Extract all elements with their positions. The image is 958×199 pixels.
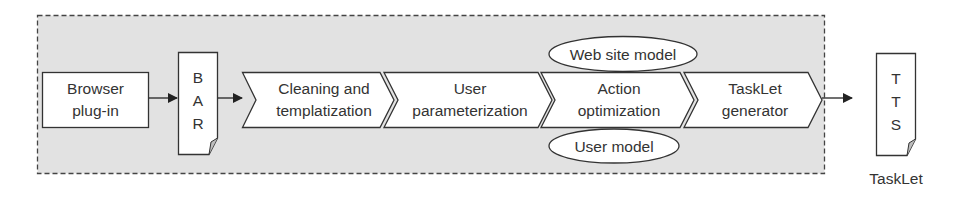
browser-plugin-box: Browser plug-in	[43, 73, 149, 128]
browser-plugin-line1: Browser	[67, 80, 124, 97]
stage-cleaning-templatization: Cleaning and templatization	[243, 73, 395, 128]
stage-action-optimization: Action optimization	[541, 73, 694, 128]
stage-user-parameterization: User parameterization	[384, 73, 552, 128]
tts-document: T T S	[877, 54, 916, 156]
stage-cleaning-line2: templatization	[276, 102, 372, 119]
tts-letter-t2: T	[891, 93, 901, 110]
tts-letter-t1: T	[891, 70, 901, 87]
tts-letter-s: S	[891, 116, 901, 133]
bar-letter-r: R	[192, 115, 203, 132]
user-model-ellipse: User model	[549, 129, 679, 163]
stage-tasklet-gen-line1: TaskLet	[728, 80, 782, 97]
stage-user-param-line2: parameterization	[412, 102, 527, 119]
stage-tasklet-generator: TaskLet generator	[684, 73, 822, 128]
stage-action-opt-line2: optimization	[578, 102, 661, 119]
web-site-model-label: Web site model	[570, 46, 677, 63]
stage-tasklet-gen-line2: generator	[722, 102, 788, 119]
bar-document: B A R	[179, 53, 218, 155]
pipeline-diagram: Browser plug-in B A R Web site model Use…	[0, 0, 958, 199]
browser-plugin-line2: plug-in	[72, 102, 119, 119]
stage-cleaning-line1: Cleaning and	[278, 80, 369, 97]
tasklet-caption: TaskLet	[869, 170, 923, 187]
stage-action-opt-line1: Action	[597, 80, 640, 97]
bar-letter-b: B	[193, 69, 203, 86]
web-site-model-ellipse: Web site model	[549, 37, 697, 72]
user-model-label: User model	[574, 138, 653, 155]
bar-letter-a: A	[193, 92, 204, 109]
stage-user-param-line1: User	[454, 80, 487, 97]
